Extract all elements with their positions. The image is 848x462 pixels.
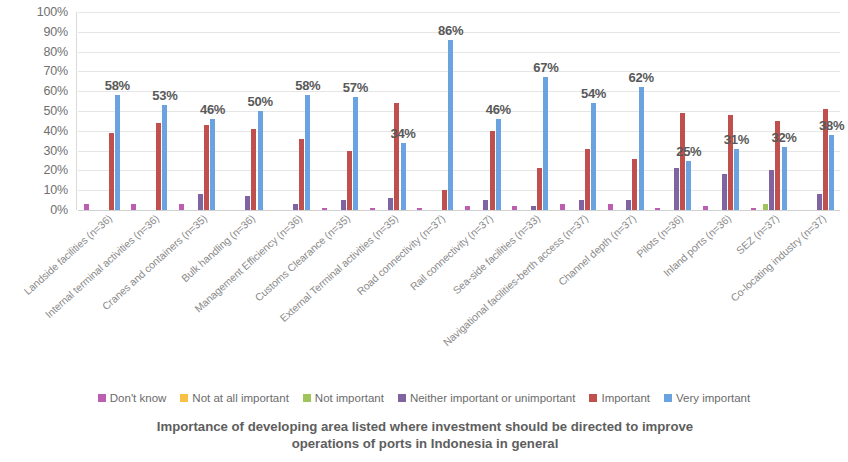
bar-important[interactable] [394,103,399,210]
bar-fill [442,190,447,210]
bar-very-important[interactable]: 34% [401,143,406,210]
bar-group: 57% [316,12,364,210]
bar-fill [728,115,733,210]
bar-very-important[interactable]: 58% [305,95,310,210]
bar-chart: 100%90%80%70%60%50%40%30%20%10%0% 58%53%… [0,0,848,462]
bar-don-t-know[interactable] [655,208,660,210]
bar-don-t-know[interactable] [131,204,136,210]
bar-very-important[interactable]: 46% [496,119,501,210]
legend-item[interactable]: Very important [664,392,750,404]
bar-group: 38% [792,12,840,210]
bar-important[interactable] [680,113,685,210]
bar-neither-important-or-unimportant[interactable] [674,168,679,210]
bar-fill [204,125,209,210]
bar-important[interactable] [632,159,637,210]
bar-fill [322,208,327,210]
legend-item[interactable]: Neither important or unimportant [398,392,576,404]
bar-fill [560,204,565,210]
bar-important[interactable] [442,190,447,210]
bar-fill [465,206,470,210]
y-axis: 100%90%80%70%60%50%40%30%20%10%0% [0,0,72,222]
bar-important[interactable] [347,151,352,210]
x-axis-tick-label: Landside facilities (n=36) [21,212,114,297]
bar-don-t-know[interactable] [84,204,89,210]
bar-neither-important-or-unimportant[interactable] [245,196,250,210]
legend-item[interactable]: Important [589,392,650,404]
bar-neither-important-or-unimportant[interactable] [531,206,536,210]
bar-fill [251,129,256,210]
bar-important[interactable] [490,131,495,210]
bar-fill [674,168,679,210]
bar-fill [401,143,406,210]
bar-very-important[interactable]: 54% [591,103,596,210]
bar-don-t-know[interactable] [417,208,422,210]
bar-group: 25% [650,12,698,210]
bar-neither-important-or-unimportant[interactable] [817,194,822,210]
bar-don-t-know[interactable] [179,204,184,210]
bar-neither-important-or-unimportant[interactable] [198,194,203,210]
bar-very-important[interactable]: 57% [353,97,358,210]
bar-important[interactable] [537,168,542,210]
bar-group: 50% [221,12,269,210]
bar-neither-important-or-unimportant[interactable] [722,174,727,210]
bar-don-t-know[interactable] [560,204,565,210]
bar-neither-important-or-unimportant[interactable] [626,200,631,210]
bar-important[interactable] [728,115,733,210]
bar-very-important[interactable]: 50% [258,111,263,210]
bar-don-t-know[interactable] [370,208,375,210]
bar-fill [769,170,774,210]
bar-fill [608,204,613,210]
bar-very-important[interactable]: 38% [829,135,834,210]
bar-fill [531,206,536,210]
legend-item[interactable]: Not at all important [180,392,289,404]
legend-item[interactable]: Not important [303,392,384,404]
bar-very-important[interactable]: 46% [210,119,215,210]
bar-very-important[interactable]: 58% [115,95,120,210]
bar-fill [829,135,834,210]
bar-fill [543,77,548,210]
bar-very-important[interactable]: 25% [686,161,691,211]
bar-fill [512,206,517,210]
bar-important[interactable] [299,139,304,210]
bar-neither-important-or-unimportant[interactable] [579,200,584,210]
bar-don-t-know[interactable] [703,206,708,210]
bar-fill [579,200,584,210]
legend-label: Not important [315,392,384,404]
bar-don-t-know[interactable] [322,208,327,210]
bar-group: 58% [78,12,126,210]
bar-fill [626,200,631,210]
bar-fill [162,105,167,210]
bar-fill [722,174,727,210]
bar-very-important[interactable]: 86% [448,40,453,210]
bar-very-important[interactable]: 53% [162,105,167,210]
bar-neither-important-or-unimportant[interactable] [483,200,488,210]
legend-item[interactable]: Don't know [98,392,167,404]
bar-important[interactable] [109,133,114,210]
bar-don-t-know[interactable] [512,206,517,210]
bar-very-important[interactable]: 62% [639,87,644,210]
bar-very-important[interactable]: 31% [734,149,739,210]
bar-important[interactable] [585,149,590,210]
bar-neither-important-or-unimportant[interactable] [341,200,346,210]
bar-value-label: 38% [819,118,844,133]
bar-neither-important-or-unimportant[interactable] [388,198,393,210]
bar-fill [591,103,596,210]
bar-don-t-know[interactable] [608,204,613,210]
bar-very-important[interactable]: 67% [543,77,548,210]
bar-fill [639,87,644,210]
bar-not-important[interactable] [763,204,768,210]
bar-neither-important-or-unimportant[interactable] [293,204,298,210]
x-axis-tick-label: Sea-side facilities (n=33) [451,212,543,296]
bar-neither-important-or-unimportant[interactable] [769,170,774,210]
bar-important[interactable] [204,125,209,210]
bar-don-t-know[interactable] [465,206,470,210]
bar-important[interactable] [251,129,256,210]
bar-group: 32% [745,12,793,210]
bar-fill [179,204,184,210]
bar-groups: 58%53%46%50%58%57%34%86%46%67%54%62%25%3… [78,12,840,210]
bar-very-important[interactable]: 32% [782,147,787,210]
bar-don-t-know[interactable] [751,208,756,210]
bar-fill [109,133,114,210]
bar-important[interactable] [156,123,161,210]
bar-fill [198,194,203,210]
